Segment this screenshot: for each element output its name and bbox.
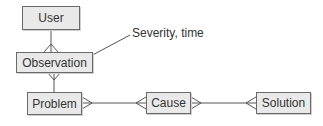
annotation-severity-time: Severity, time [132, 26, 204, 40]
entity-cause-label: Cause [151, 96, 186, 110]
entity-solution: Solution [256, 92, 311, 114]
entity-problem: Problem [27, 92, 82, 115]
entity-problem-label: Problem [32, 97, 77, 111]
entity-user-label: User [38, 11, 63, 25]
entity-cause: Cause [146, 92, 191, 114]
entity-solution-label: Solution [262, 96, 305, 110]
annotation-leader-line [87, 35, 130, 58]
entity-user: User [22, 6, 80, 30]
entity-observation: Observation [16, 52, 93, 73]
entity-observation-label: Observation [22, 56, 87, 70]
